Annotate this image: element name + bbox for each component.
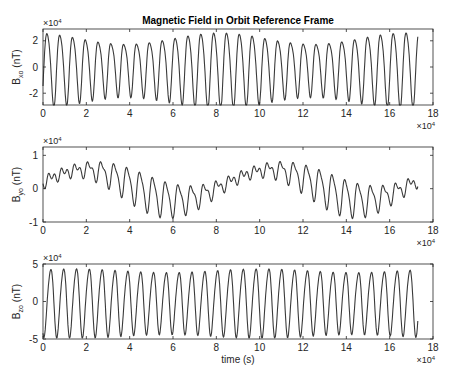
x-tick-label: 10 [254, 108, 266, 119]
y-exponent-label: ×104 [43, 136, 62, 146]
x-tick-label: 8 [214, 225, 220, 236]
y-tick-label: 5 [32, 259, 38, 270]
subplot-1: 024681012141618-202×104×104Bxo(nT) [11, 18, 439, 131]
y-tick-label: -2 [29, 88, 38, 99]
y-tick-label: -5 [29, 334, 38, 345]
data-line [43, 269, 418, 338]
x-tick-label: 4 [127, 225, 133, 236]
x-exponent-label: ×104 [416, 238, 435, 248]
x-tick-label: 18 [427, 108, 439, 119]
y-tick-label: 0 [32, 296, 38, 307]
x-tick-label: 14 [341, 108, 353, 119]
figure-title: Magnetic Field in Orbit Reference Frame [142, 15, 334, 26]
x-exponent-label: ×104 [416, 121, 435, 131]
y-axis-label: Bzo(nT) [11, 284, 24, 319]
x-tick-label: 16 [384, 342, 396, 353]
x-tick-label: 18 [427, 342, 439, 353]
x-tick-label: 16 [384, 108, 396, 119]
y-tick-label: 1 [32, 150, 38, 161]
x-tick-label: 2 [84, 108, 90, 119]
x-tick-label: 8 [214, 108, 220, 119]
subplot-2: 024681012141618-101×104×104Byo(nT) [11, 136, 439, 248]
subplot-3: 024681012141618-505×104×104Bzo(nT)time (… [11, 253, 439, 365]
x-tick-label: 10 [254, 342, 266, 353]
figure: Magnetic Field in Orbit Reference Frame … [0, 0, 454, 381]
x-axis-label: time (s) [221, 354, 254, 365]
x-tick-label: 8 [214, 342, 220, 353]
y-axis-label: Bxo(nT) [11, 49, 24, 84]
y-tick-label: 2 [32, 35, 38, 46]
data-line [43, 162, 418, 219]
x-tick-label: 0 [40, 108, 46, 119]
y-exponent-label: ×104 [43, 18, 62, 28]
x-tick-label: 6 [170, 225, 176, 236]
x-tick-label: 18 [427, 225, 439, 236]
x-tick-label: 6 [170, 108, 176, 119]
subplots: 024681012141618-202×104×104Bxo(nT)024681… [11, 18, 439, 365]
x-tick-label: 12 [297, 225, 309, 236]
x-tick-label: 16 [384, 225, 396, 236]
x-tick-label: 4 [127, 342, 133, 353]
x-tick-label: 2 [84, 342, 90, 353]
x-tick-label: 0 [40, 225, 46, 236]
x-tick-label: 12 [297, 342, 309, 353]
x-tick-label: 14 [341, 225, 353, 236]
x-tick-label: 2 [84, 225, 90, 236]
x-tick-label: 12 [297, 108, 309, 119]
y-tick-label: 0 [32, 62, 38, 73]
x-tick-label: 6 [170, 342, 176, 353]
x-exponent-label: ×104 [416, 355, 435, 365]
y-axis-label: Byo(nT) [11, 167, 25, 202]
y-tick-label: 0 [32, 183, 38, 194]
x-tick-label: 14 [341, 342, 353, 353]
x-tick-label: 4 [127, 108, 133, 119]
data-line [43, 33, 418, 105]
y-exponent-label: ×104 [43, 253, 62, 263]
y-tick-label: -1 [29, 217, 38, 228]
x-tick-label: 10 [254, 225, 266, 236]
x-tick-label: 0 [40, 342, 46, 353]
